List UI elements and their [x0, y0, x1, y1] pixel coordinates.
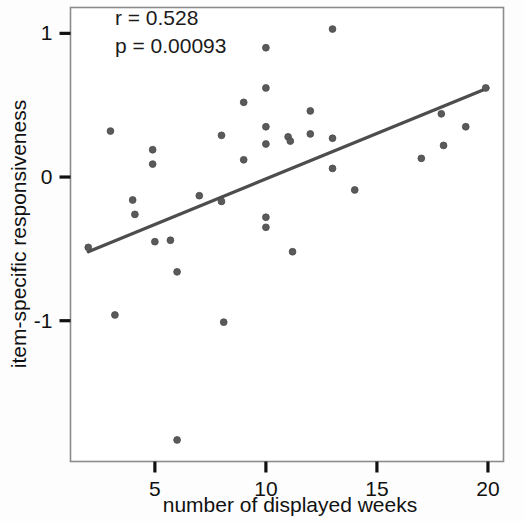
data-point [263, 44, 270, 51]
y-axis-tick-labels: 10-1 [34, 21, 53, 331]
y-tick-label: 0 [41, 165, 53, 188]
plot-frame [71, 8, 504, 462]
data-point [263, 224, 270, 231]
data-point [149, 146, 156, 153]
data-point [196, 192, 203, 199]
data-point [263, 141, 270, 148]
data-point [107, 128, 114, 135]
data-point [307, 108, 314, 115]
data-point [263, 123, 270, 130]
x-tick-label: 20 [476, 477, 499, 500]
data-point [482, 85, 489, 92]
data-point [440, 142, 447, 149]
x-axis-ticks [155, 462, 488, 473]
data-point [329, 165, 336, 172]
data-point [218, 198, 225, 205]
data-point [174, 268, 181, 275]
x-axis-title: number of displayed weeks [163, 493, 417, 516]
data-point [418, 155, 425, 162]
data-point [218, 132, 225, 139]
data-point [85, 244, 92, 251]
data-point [129, 197, 136, 204]
data-point [167, 237, 174, 244]
data-point [289, 248, 296, 255]
data-point [351, 187, 358, 194]
y-axis-ticks [60, 33, 71, 320]
correlation-coefficient: r = 0.528 [115, 6, 198, 29]
y-axis-title: item-specific responsiveness [7, 100, 30, 368]
data-point [174, 437, 181, 444]
data-point [329, 135, 336, 142]
data-point [307, 131, 314, 138]
data-point [240, 156, 247, 163]
data-point [263, 214, 270, 221]
data-point [462, 123, 469, 130]
data-point [112, 312, 119, 319]
x-tick-label: 5 [149, 477, 161, 500]
data-point [151, 238, 158, 245]
data-point [220, 319, 227, 326]
data-point [149, 161, 156, 168]
y-tick-label: 1 [41, 21, 53, 44]
data-point [263, 85, 270, 92]
p-value: p = 0.00093 [115, 34, 227, 57]
data-point [287, 138, 294, 145]
data-point [438, 110, 445, 117]
plot-canvas: 10-1 5101520 r = 0.528p = 0.00093 number… [0, 0, 524, 521]
data-point [329, 26, 336, 33]
scatter-plot-figure: 10-1 5101520 r = 0.528p = 0.00093 number… [0, 0, 524, 521]
data-point [131, 211, 138, 218]
data-point [240, 99, 247, 106]
y-tick-label: -1 [34, 309, 53, 332]
